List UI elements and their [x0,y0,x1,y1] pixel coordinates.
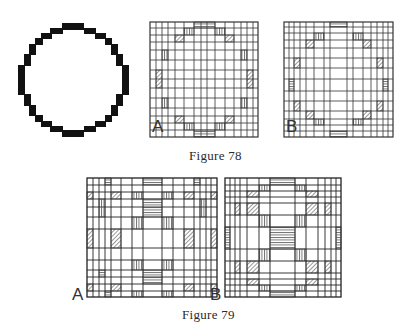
figure-79b-label: B [210,285,221,305]
figure-78a-label: A [152,117,163,137]
figure-78a-grid [149,21,259,138]
figure-79-caption: Figure 79 [182,307,235,323]
pixel-circle-figure [14,20,132,142]
figure-78-caption: Figure 78 [189,148,242,164]
figure-79b-grid [224,177,342,299]
figure-79a-grid [86,177,218,299]
figure-79a-label: A [72,285,83,305]
figure-78b-label: B [286,117,297,137]
figure-78b-grid [283,21,394,138]
